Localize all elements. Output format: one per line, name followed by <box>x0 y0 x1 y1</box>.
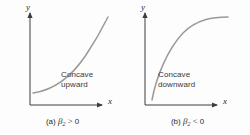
y-axis-label-a: y <box>26 3 30 12</box>
caption-panel-a: (a) β2 > 0 <box>0 115 125 130</box>
x-axis-label-a: x <box>108 97 112 106</box>
panel-concave-upward: y x Concave upward (a) β2 > 0 <box>0 0 125 135</box>
x-axis-label-b: x <box>223 97 227 106</box>
y-axis-label-b: y <box>141 3 145 12</box>
caption-prefix-a: (a) <box>46 117 56 126</box>
annotation-line-2-b: downward <box>158 80 195 90</box>
annotation-concave-downward: Concave downward <box>158 70 195 90</box>
caption-value-b: 0 <box>200 117 204 126</box>
annotation-line-1-a: Concave <box>61 70 93 80</box>
caption-prefix-b: (b) <box>171 117 181 126</box>
plot-area-a <box>0 0 125 115</box>
caption-value-a: 0 <box>75 117 79 126</box>
annotation-concave-upward: Concave upward <box>61 70 93 90</box>
annotation-line-1-b: Concave <box>158 70 195 80</box>
panel-concave-downward: y x Concave downward (b) β2 < 0 <box>125 0 250 135</box>
plot-area-b <box>125 0 250 115</box>
figure-concavity: y x Concave upward (a) β2 > 0 <box>0 0 250 135</box>
caption-panel-b: (b) β2 < 0 <box>125 115 250 130</box>
annotation-line-2-a: upward <box>61 80 93 90</box>
